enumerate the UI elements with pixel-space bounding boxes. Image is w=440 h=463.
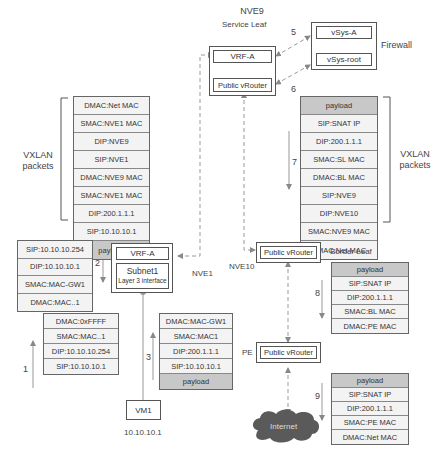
internet-label: Internet [270, 422, 297, 431]
packet-stack-step7: payload SIP:SNAT IP DIP:200.1.1.1 SMAC:S… [300, 96, 378, 260]
packet-field: SMAC:NVE1 MAC [74, 187, 149, 205]
nve1-node[interactable]: VRF-A Subnet1 Layer 3 interface [111, 243, 173, 293]
packet-field: SMAC:MAC1 [160, 329, 232, 344]
packet-field: SMAC:MAC..1 [44, 329, 118, 344]
packet-field: DIP:200.1.1.1 [74, 205, 149, 223]
vm1-ip: 10.10.10.1 [124, 428, 162, 437]
packet-payload: payload [160, 374, 232, 389]
packet-field: SMAC:NVE1 MAC [74, 115, 149, 133]
packet-field: DMAC:MAC-GW1 [160, 314, 232, 329]
packet-field: DIP:NVE9 [74, 133, 149, 151]
pe-label: PE [242, 348, 253, 357]
pe-node[interactable]: Public vRouter [256, 342, 321, 363]
pe-public-vrouter[interactable]: Public vRouter [260, 346, 317, 359]
packet-field: SIP:10.10.10.1 [160, 359, 232, 374]
packet-field: SIP:10.10.10.1 [44, 359, 118, 374]
packet-field: SIP:NVE1 [74, 151, 149, 169]
packet-field: SMAC:SL MAC [301, 151, 377, 169]
nve10-node[interactable]: Public vRouter [256, 242, 321, 263]
step-3-label: 3 [146, 352, 151, 362]
packet-field: DIP:200.1.1.1 [301, 133, 377, 151]
step-7-label: 7 [292, 157, 297, 167]
packet-field: SIP:SNAT IP [332, 277, 408, 291]
packet-stack-step8: payload SIP:SNAT IP DIP:200.1.1.1 SMAC:B… [331, 262, 409, 334]
packet-field: DMAC:MAC..1 [18, 294, 92, 312]
packet-field: DIP:10.10.10.1 [18, 259, 92, 277]
packet-field: SMAC:BL MAC [332, 305, 408, 319]
step-8-label: 8 [315, 288, 320, 298]
nve10-public-vrouter[interactable]: Public vRouter [260, 246, 317, 259]
packet-field: DMAC:0xFFFF [44, 314, 118, 329]
packet-payload: payload [332, 374, 408, 388]
packet-field: DIP:200.1.1.1 [160, 344, 232, 359]
nve1-label: NVE1 [192, 269, 213, 278]
packet-field: SIP:10.10.10.1 [74, 223, 149, 241]
subnet1-label: Subnet1 [127, 266, 159, 276]
layer3-interface-label: Layer 3 interface [118, 276, 166, 286]
vm1-label: VM1 [135, 406, 151, 415]
nve1-subnet1[interactable]: Subnet1 Layer 3 interface [116, 263, 169, 289]
nve9-public-vrouter[interactable]: Public vRouter [213, 78, 272, 92]
packet-stack-step4: DMAC:Net MAC SMAC:NVE1 MAC DIP:NVE9 SIP:… [73, 96, 150, 260]
packet-field: DMAC:PE MAC [332, 319, 408, 333]
vsys-root[interactable]: vSys-root [316, 53, 372, 66]
packet-field: SIP:SNAT IP [301, 115, 377, 133]
packet-field: DIP:200.1.1.1 [332, 291, 408, 305]
packet-field: DMAC:BL MAC [301, 169, 377, 187]
packet-payload: payload [332, 263, 408, 277]
packet-field: DIP:10.10.10.254 [44, 344, 118, 359]
firewall-label: Firewall [381, 40, 412, 50]
firewall-node[interactable]: vSys-A vSys-root [311, 22, 377, 70]
packet-field: DIP:200.1.1.1 [332, 402, 408, 416]
step-6-label: 6 [291, 84, 296, 94]
packet-stack-step3: DMAC:MAC-GW1 SMAC:MAC1 DIP:200.1.1.1 SIP… [159, 313, 233, 390]
nve9-node[interactable]: VRF-A Public vRouter [209, 46, 276, 96]
packet-field: SIP:NVE9 [301, 187, 377, 205]
packet-field: SMAC:PE MAC [332, 416, 408, 430]
packet-field: SIP:SNAT IP [332, 388, 408, 402]
packet-stack-step9: payload SIP:SNAT IP DIP:200.1.1.1 SMAC:P… [331, 373, 409, 445]
packet-field: DMAC:Net MAC [332, 430, 408, 444]
vxlan-packets-left-label: VXLAN packets [18, 150, 58, 172]
nve1-vrf-a[interactable]: VRF-A [116, 247, 169, 260]
packet-payload: payload [301, 97, 377, 115]
packet-field: DMAC:NVE9 MAC [74, 169, 149, 187]
vm1-node[interactable]: VM1 [126, 400, 161, 420]
border-leaf-label: Border Leaf [330, 247, 372, 256]
packet-field: SIP:10.10.10.254 [18, 241, 92, 259]
vxlan-packets-right-label: VXLAN packets [393, 149, 437, 171]
nve9-subtitle: Service Leaf [222, 20, 266, 29]
nve9-title: NVE9 [222, 6, 282, 17]
nve10-label: NVE10 [229, 262, 254, 271]
packet-field: DIP:NVE10 [301, 205, 377, 223]
packet-field: SMAC:NVE9 MAC [301, 223, 377, 241]
step-5-label: 5 [291, 27, 296, 37]
packet-stack-step2: SIP:10.10.10.254 DIP:10.10.10.1 SMAC:MAC… [17, 240, 93, 312]
step-1-label: 1 [23, 364, 28, 374]
nve9-vrf-a[interactable]: VRF-A [213, 50, 272, 63]
packet-stack-step1: DMAC:0xFFFF SMAC:MAC..1 DIP:10.10.10.254… [43, 313, 119, 375]
packet-field: DMAC:Net MAC [74, 97, 149, 115]
vsys-a[interactable]: vSys-A [316, 26, 372, 39]
packet-field: SMAC:MAC-GW1 [18, 276, 92, 294]
step-9-label: 9 [315, 391, 320, 401]
